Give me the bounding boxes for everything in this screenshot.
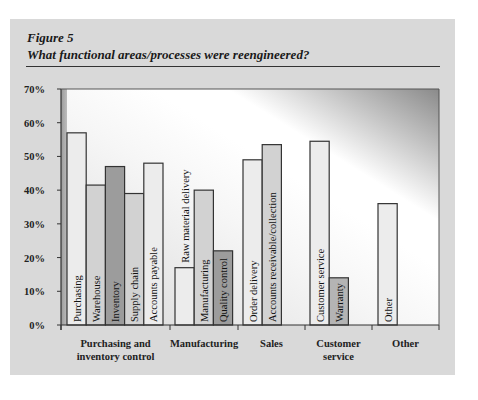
y-tick-label: 70% bbox=[24, 84, 45, 95]
category-label: service bbox=[323, 351, 354, 362]
bar-label: Manufacturing bbox=[199, 259, 210, 322]
y-tick-label: 0% bbox=[29, 320, 45, 331]
bar-label: Warehouse bbox=[91, 275, 102, 322]
y-tick-label: 10% bbox=[24, 286, 45, 297]
bar-label: Inventory bbox=[110, 280, 121, 322]
bar-label: Accounts payable bbox=[148, 247, 159, 322]
category-label: Customer bbox=[316, 338, 361, 349]
y-tick-label: 60% bbox=[24, 118, 45, 129]
bar-label: Order delivery bbox=[248, 260, 259, 322]
bar-label: Quality control bbox=[218, 258, 229, 322]
bar-label: Supply chain bbox=[129, 266, 140, 322]
bar-label: Purchasing bbox=[72, 275, 83, 322]
bar-label: Warranty bbox=[334, 282, 345, 322]
category-label: Other bbox=[392, 338, 419, 349]
bar-label: Accounts receivable/collection bbox=[267, 192, 278, 322]
bar-chart: PurchasingWarehouseInventorySupply chain… bbox=[0, 0, 478, 400]
bar bbox=[175, 268, 194, 325]
bar-label: Raw material delivery bbox=[180, 169, 191, 263]
y-tick-label: 40% bbox=[24, 185, 45, 196]
bar-label: Other bbox=[383, 298, 394, 322]
y-tick-label: 20% bbox=[24, 253, 45, 264]
y-tick-label: 50% bbox=[24, 151, 45, 162]
category-label: Sales bbox=[260, 338, 283, 349]
category-label: Manufacturing bbox=[170, 338, 239, 349]
y-tick-label: 30% bbox=[24, 219, 45, 230]
bar-label: Customer service bbox=[315, 248, 326, 322]
category-label: inventory control bbox=[77, 351, 155, 362]
category-label: Purchasing and bbox=[80, 338, 150, 349]
plot-left-band bbox=[61, 89, 67, 325]
